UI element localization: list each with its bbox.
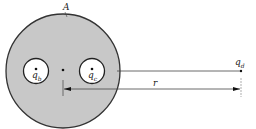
charge-d-label: qd <box>235 58 245 69</box>
charge-c-subscript: c <box>94 75 97 82</box>
diagram-canvas: A qb qc qd r <box>0 0 256 129</box>
arrowhead-right <box>233 87 240 91</box>
charge-c-label: qc <box>88 71 97 82</box>
charge-b-subscript: b <box>38 75 42 82</box>
charge-d-dot <box>240 70 242 72</box>
distance-label: r <box>153 79 157 88</box>
diagram-svg <box>0 0 256 129</box>
conductor-label: A <box>63 3 70 12</box>
charge-b-label: qb <box>32 71 42 82</box>
center-dot <box>62 69 65 72</box>
charge-d-subscript: d <box>241 62 245 69</box>
